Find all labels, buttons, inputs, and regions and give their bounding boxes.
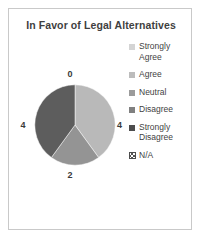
legend-item-label: Strongly Agree bbox=[139, 41, 192, 62]
legend-item[interactable]: N/A bbox=[129, 150, 192, 161]
legend-item-label: Agree bbox=[139, 69, 162, 80]
legend-item[interactable]: Strongly Agree bbox=[129, 41, 192, 62]
legend-item-label: Neutral bbox=[139, 87, 166, 98]
legend-item[interactable]: Neutral bbox=[129, 87, 192, 98]
legend-item[interactable]: Agree bbox=[129, 69, 192, 80]
legend-swatch-icon bbox=[129, 125, 135, 131]
legend-swatch-icon bbox=[129, 44, 135, 50]
pie-graphic bbox=[34, 84, 116, 166]
legend-item-label: Disagree bbox=[139, 104, 173, 115]
legend-swatch-icon bbox=[129, 152, 136, 159]
legend-swatch-icon bbox=[129, 72, 135, 78]
pie-svg bbox=[34, 84, 116, 166]
legend-item[interactable]: Disagree bbox=[129, 104, 192, 115]
data-label-top: 0 bbox=[9, 69, 131, 79]
data-label-bottom: 2 bbox=[9, 170, 131, 180]
pie-slice-group bbox=[35, 85, 115, 165]
chart-legend: Strongly AgreeAgreeNeutralDisagreeStrong… bbox=[129, 41, 192, 167]
legend-item[interactable]: Strongly Disagree bbox=[129, 122, 192, 143]
legend-swatch-icon bbox=[129, 90, 135, 96]
data-label-left: 4 bbox=[15, 120, 31, 130]
pie-plot-area: 0 4 2 4 bbox=[9, 39, 131, 229]
chart-container: In Favor of Legal Alternatives 0 4 2 4 S… bbox=[8, 8, 192, 230]
chart-title: In Favor of Legal Alternatives bbox=[9, 19, 192, 31]
legend-item-label: Strongly Disagree bbox=[139, 122, 192, 143]
legend-swatch-icon bbox=[129, 107, 135, 113]
legend-item-label: N/A bbox=[139, 150, 153, 161]
